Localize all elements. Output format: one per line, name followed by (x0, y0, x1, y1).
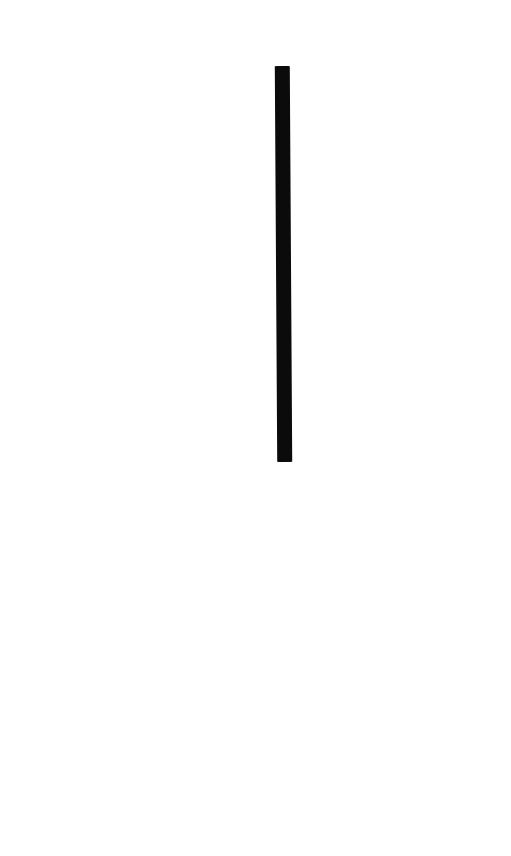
black-vertical-bar (275, 66, 292, 462)
page-background (0, 0, 511, 856)
